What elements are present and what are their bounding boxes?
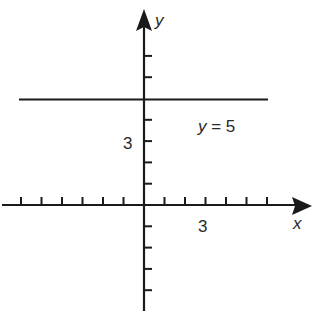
y-ticks bbox=[144, 56, 152, 290]
coordinate-plane: y x 3 3 y = 5 bbox=[0, 0, 317, 311]
x-axis bbox=[2, 197, 312, 215]
line-label: y = 5 bbox=[197, 117, 235, 136]
y-axis bbox=[136, 9, 152, 311]
line-label-rest: = 5 bbox=[207, 117, 236, 136]
y-tick-label-3: 3 bbox=[123, 134, 132, 153]
x-axis-label: x bbox=[292, 214, 302, 233]
x-axis-arrow-icon bbox=[292, 197, 312, 215]
x-tick-label-3: 3 bbox=[198, 217, 207, 236]
y-axis-label: y bbox=[154, 11, 165, 30]
